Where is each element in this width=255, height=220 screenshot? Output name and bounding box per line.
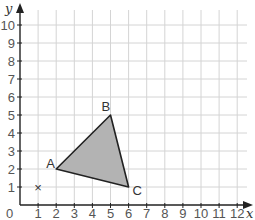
y-tick-label: 10 — [1, 18, 15, 33]
x-tick-label: 12 — [230, 206, 244, 220]
vertex-label-a: A — [46, 156, 55, 171]
y-tick-label: 7 — [8, 72, 15, 87]
vertex-label-b: B — [102, 99, 111, 114]
x-tick-label: 7 — [143, 206, 150, 220]
x-tick-label: 5 — [107, 206, 114, 220]
origin-label: 0 — [6, 206, 13, 220]
y-tick-label: 4 — [8, 126, 15, 141]
grid-lines — [20, 10, 247, 205]
vertex-label-c: C — [133, 183, 142, 198]
x-tick-label: 4 — [89, 206, 96, 220]
x-tick-label: 1 — [34, 206, 41, 220]
x-tick-label: 6 — [125, 206, 132, 220]
x-tick-label: 3 — [71, 206, 78, 220]
x-tick-label: 9 — [179, 206, 186, 220]
y-axis-arrow-icon — [16, 3, 24, 13]
x-tick-label: 10 — [194, 206, 208, 220]
x-tick-label: 2 — [53, 206, 60, 220]
y-tick-label: 1 — [8, 180, 15, 195]
y-tick-label: 6 — [8, 90, 15, 105]
x-tick-label: 11 — [212, 206, 226, 220]
y-tick-label: 9 — [8, 36, 15, 51]
axes — [16, 3, 253, 209]
y-tick-label: 8 — [8, 54, 15, 69]
cross-marker: × — [34, 180, 42, 195]
y-tick-label: 2 — [8, 162, 15, 177]
x-axis-label: x — [246, 206, 254, 220]
coordinate-grid: 12345678910111212345678910 ABC × x y 0 — [0, 0, 255, 220]
y-axis-label: y — [4, 1, 13, 16]
x-tick-label: 8 — [161, 206, 168, 220]
y-tick-label: 5 — [8, 108, 15, 123]
y-tick-label: 3 — [8, 144, 15, 159]
